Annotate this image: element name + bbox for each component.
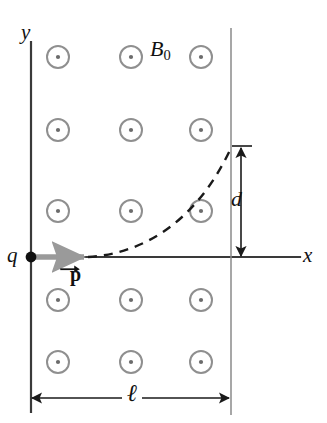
field-marker-out-of-page bbox=[190, 200, 212, 222]
magnetic-field-markers bbox=[47, 46, 212, 373]
field-marker-out-of-page bbox=[190, 46, 212, 68]
field-marker-out-of-page bbox=[47, 46, 69, 68]
depth-label: d bbox=[231, 188, 242, 210]
magnetic-field-label: B0 bbox=[150, 38, 171, 63]
field-marker-out-of-page bbox=[47, 119, 69, 141]
vector-arrow-accent-icon bbox=[59, 264, 80, 272]
axes-group bbox=[31, 42, 300, 412]
field-marker-out-of-page bbox=[120, 200, 142, 222]
field-marker-out-of-page bbox=[190, 351, 212, 373]
field-marker-out-of-page bbox=[47, 351, 69, 373]
length-label: ℓ bbox=[122, 381, 142, 405]
diagram-canvas bbox=[0, 0, 327, 423]
charge-point-dot bbox=[26, 252, 37, 263]
magnetic-field-subscript: 0 bbox=[163, 47, 170, 63]
field-marker-out-of-page bbox=[47, 289, 69, 311]
physics-diagram: y x q B0 p d ℓ bbox=[0, 0, 327, 423]
field-marker-out-of-page bbox=[120, 351, 142, 373]
y-axis-label: y bbox=[21, 22, 30, 43]
x-axis-label: x bbox=[303, 245, 312, 266]
field-marker-out-of-page bbox=[190, 289, 212, 311]
charge-label: q bbox=[7, 245, 18, 266]
field-marker-out-of-page bbox=[120, 46, 142, 68]
momentum-vector-label: p bbox=[70, 264, 81, 284]
field-marker-out-of-page bbox=[120, 119, 142, 141]
field-marker-out-of-page bbox=[120, 289, 142, 311]
magnetic-field-symbol: B bbox=[150, 36, 163, 61]
trajectory-dashed-curve bbox=[88, 148, 231, 257]
field-marker-out-of-page bbox=[190, 119, 212, 141]
field-marker-out-of-page bbox=[47, 200, 69, 222]
